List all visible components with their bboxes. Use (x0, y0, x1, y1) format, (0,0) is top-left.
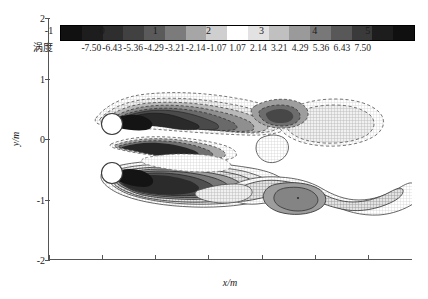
plot-canvas (49, 18, 412, 259)
x-tick-label-0: -1 (45, 25, 53, 36)
y-tick-mark-3 (45, 200, 50, 201)
x-tick-mark-1 (102, 255, 103, 260)
y-tick-label-3: -1 (37, 194, 45, 205)
upper-cylinder (102, 114, 123, 135)
x-tick-mark-6 (368, 255, 369, 260)
vorticity-field (49, 18, 412, 259)
y-tick-label-1: 1 (40, 73, 45, 84)
x-tick-label-1: 0 (100, 25, 105, 36)
x-tick-label-4: 3 (259, 25, 264, 36)
y-tick-label-0: 2 (40, 13, 45, 24)
x-tick-mark-0 (49, 255, 50, 260)
y-tick-label-2: 0 (40, 134, 45, 145)
contour-island-pos-1p07 (256, 135, 288, 163)
y-axis-label: y/m (10, 132, 21, 146)
y-tick-mark-2 (45, 139, 50, 140)
vorticity-contour-figure: -7.50-6.43-5.36-4.29-3.21-2.14-1.071.072… (0, 0, 428, 299)
lower-cylinder (102, 163, 123, 184)
y-tick-mark-1 (45, 79, 50, 80)
x-tick-mark-5 (315, 255, 316, 260)
x-tick-mark-2 (155, 255, 156, 260)
x-tick-mark-3 (208, 255, 209, 260)
x-tick-label-2: 1 (153, 25, 158, 36)
y-tick-label-4: -2 (37, 255, 45, 266)
y-tick-mark-0 (45, 18, 50, 19)
x-tick-label-3: 2 (206, 25, 211, 36)
y-tick-mark-4 (45, 260, 50, 261)
x-tick-mark-4 (262, 255, 263, 260)
vortex-core-marker (297, 197, 299, 199)
x-tick-label-6: 5 (365, 25, 370, 36)
x-axis-label: x/m (48, 277, 412, 288)
plot-axes: 210-1-2 -1012345 (48, 18, 412, 260)
x-tick-label-5: 4 (312, 25, 317, 36)
